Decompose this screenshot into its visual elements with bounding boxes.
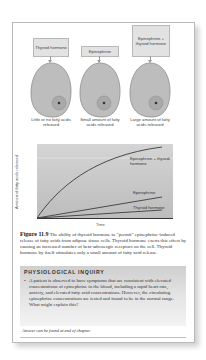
chart-y-axis-label: Amount of fatty acids released bbox=[14, 155, 19, 209]
inquiry-title: PHYSIOLOGICAL INQUIRY bbox=[24, 269, 104, 275]
series-label-epinephrine: Epinephrine bbox=[133, 190, 155, 195]
cell-label: Little or no fatty acids released bbox=[31, 117, 71, 127]
hormone-box-combined: Epinephrine + thyroid hormone bbox=[132, 25, 170, 57]
adipose-cell-icon bbox=[29, 61, 73, 119]
series-label-thyroid: Thyroid hormone bbox=[133, 205, 165, 210]
inquiry-question-text: A patient is observed to have symptoms t… bbox=[29, 278, 182, 308]
adipose-cell-icon bbox=[78, 61, 122, 119]
hormone-box-thyroid: Thyroid hormone bbox=[33, 38, 69, 57]
hormone-box-epinephrine: Epinephrine bbox=[81, 46, 119, 57]
physiological-inquiry-box: PHYSIOLOGICAL INQUIRY • A patient is obs… bbox=[20, 266, 186, 326]
hormone-box-label: Epinephrine + thyroid hormone bbox=[133, 36, 169, 46]
chart-x-axis-label: Time bbox=[96, 222, 105, 227]
cell-label: Small amount of fatty acids released bbox=[80, 117, 120, 127]
adipose-cell-icon bbox=[128, 61, 172, 119]
answer-note: Answer can be found at end of chapter. bbox=[22, 328, 91, 333]
divider bbox=[20, 337, 186, 338]
series-label-combined: Epinephrine + thyroid hormone bbox=[130, 156, 172, 166]
figure-caption: Figure 11.9 The ability of thyroid hormo… bbox=[20, 231, 188, 256]
hormone-box-label: Epinephrine bbox=[89, 49, 111, 54]
hormone-box-label: Thyroid hormone bbox=[35, 45, 67, 50]
inquiry-question: • A patient is observed to have symptoms… bbox=[24, 278, 182, 308]
cell-label: Large amount of fatty acids released bbox=[130, 117, 170, 127]
figure-number: Figure 11.9 bbox=[20, 231, 49, 237]
